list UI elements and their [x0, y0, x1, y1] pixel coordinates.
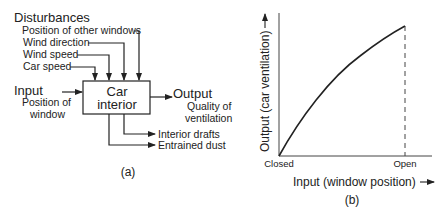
x-tick-open: Open [393, 158, 416, 169]
response-curve [279, 26, 405, 156]
response-chart: Closed Open Input (window position) Outp… [258, 13, 434, 207]
x-axis-label: Input (window position) [293, 175, 416, 189]
panel-b-caption: (b) [345, 193, 360, 207]
disturbances-title: Disturbances [14, 10, 90, 25]
output-title: Output [173, 86, 212, 101]
side-output-arrows [109, 114, 155, 145]
block-diagram: Disturbances Position of other windows W… [14, 10, 232, 179]
output-desc-line1: Quality of [187, 100, 231, 112]
disturbance-wind-speed: Wind speed [23, 48, 79, 60]
panel-a-caption: (a) [121, 165, 136, 179]
side-output-entrained-dust: Entrained dust [158, 139, 226, 151]
disturbance-car-speed: Car speed [23, 60, 72, 72]
input-desc-line2: window [29, 108, 65, 120]
y-axis-label: Output (car ventilation) [258, 31, 272, 152]
disturbance-wind-direction: Wind direction [23, 36, 90, 48]
input-desc-line1: Position of [22, 96, 71, 108]
box-label-line2: interior [97, 97, 137, 112]
disturbance-other-windows: Position of other windows [22, 24, 141, 36]
output-desc-line2: ventilation [185, 112, 232, 124]
x-tick-closed: Closed [264, 158, 294, 169]
